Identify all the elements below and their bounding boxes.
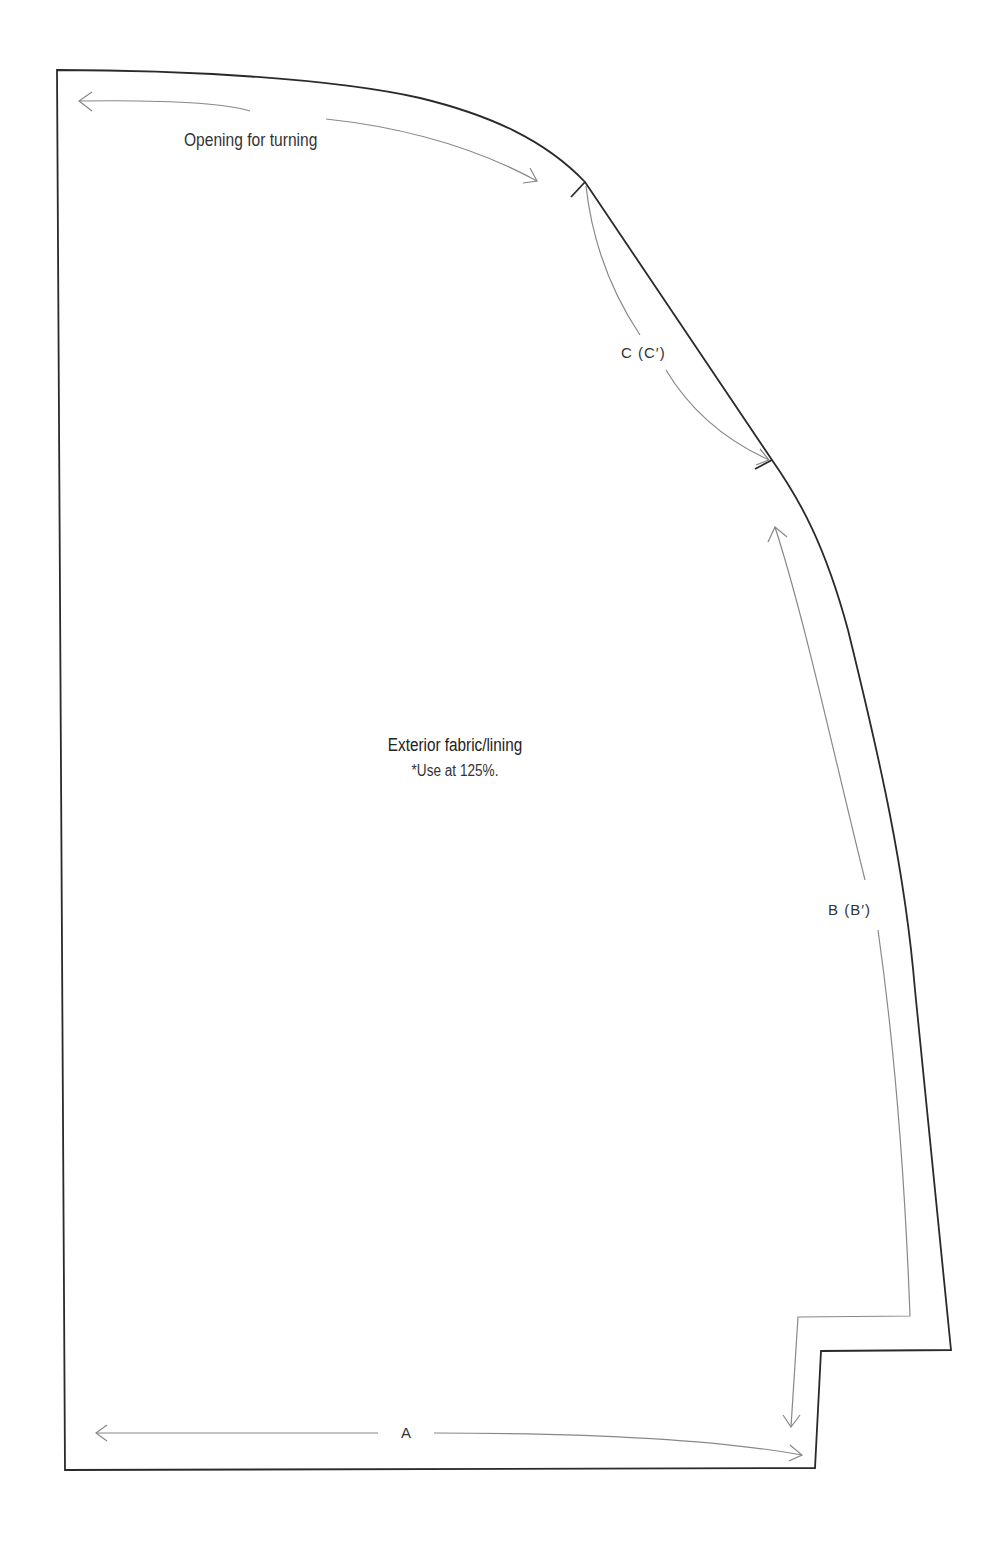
seam-a-label: A (401, 1424, 412, 1441)
seam-b-label: B (B′) (828, 901, 871, 918)
seam-c-arrow (586, 186, 769, 465)
notch-mark-top (571, 182, 585, 197)
pattern-piece-title: Exterior fabric/lining (315, 735, 596, 756)
pattern-scale-note: *Use at 125%. (315, 762, 596, 780)
opening-for-turning-label: Opening for turning (184, 129, 317, 151)
opening-arrow-left (79, 92, 250, 111)
seam-b-arrow (768, 527, 910, 1427)
pattern-title-block: Exterior fabric/lining *Use at 125%. (290, 735, 620, 780)
seam-a-arrow (96, 1425, 802, 1461)
opening-arrow-right (326, 119, 537, 183)
seam-c-label: C (C′) (621, 344, 666, 361)
